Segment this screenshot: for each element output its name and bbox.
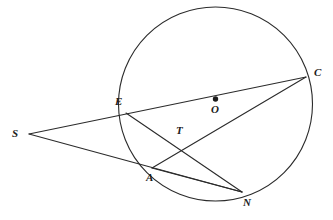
point-label-c: C bbox=[314, 67, 321, 78]
secant-s-e-c bbox=[29, 77, 306, 134]
chord-a-n bbox=[152, 168, 242, 192]
segments-group bbox=[29, 77, 306, 192]
point-label-n: N bbox=[243, 197, 251, 208]
point-label-t: T bbox=[176, 125, 183, 136]
point-label-a: A bbox=[146, 172, 153, 183]
point-label-e: E bbox=[115, 96, 122, 107]
point-label-s: S bbox=[12, 128, 18, 139]
point-label-o: O bbox=[211, 104, 219, 115]
center-point-dot bbox=[213, 96, 218, 101]
center-marker-group bbox=[213, 96, 218, 101]
geometry-canvas bbox=[0, 0, 333, 220]
chord-a-c bbox=[152, 77, 306, 168]
geometry-diagram: S E C A N T O bbox=[0, 0, 333, 220]
